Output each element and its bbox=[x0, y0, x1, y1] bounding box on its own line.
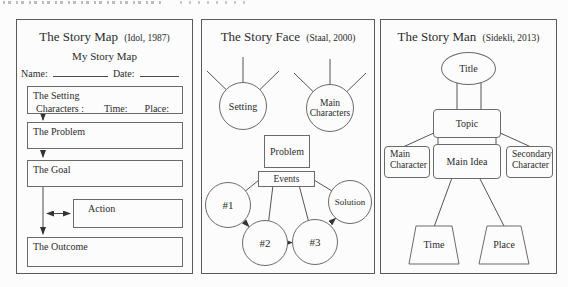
story-man-title-text: The Story Man bbox=[398, 29, 477, 44]
panel-story-man: The Story Man (Sidekli, 2013) Title Topi… bbox=[380, 19, 557, 274]
date-label: Date: bbox=[113, 68, 135, 79]
main-idea-box: Main Idea bbox=[433, 144, 501, 179]
main-character-box: Main Character bbox=[384, 146, 430, 178]
name-blank-line bbox=[53, 75, 108, 77]
setting-box-title: The Setting bbox=[33, 89, 177, 102]
name-label: Name: bbox=[21, 68, 48, 79]
events-node: Events bbox=[258, 171, 315, 187]
topic-box: Topic bbox=[433, 109, 501, 138]
time-label: Time bbox=[409, 239, 459, 250]
outcome-box: The Outcome bbox=[27, 237, 183, 267]
event-3-circle: #3 bbox=[292, 219, 338, 265]
name-date-row: Name: Date: bbox=[21, 68, 184, 79]
figure-three-story-diagrams: The Story Map (Idol, 1987) My Story Map … bbox=[0, 0, 568, 287]
story-map-title: The Story Map (Idol, 1987) bbox=[17, 29, 192, 45]
place-field-label: Place: bbox=[145, 102, 169, 115]
clipped-caption-fragment bbox=[3, 1, 163, 4]
clipped-caption-fragment bbox=[180, 1, 250, 4]
action-box: Action bbox=[73, 199, 183, 228]
panel-story-map: The Story Map (Idol, 1987) My Story Map … bbox=[16, 19, 193, 274]
goal-box: The Goal bbox=[27, 160, 183, 187]
story-man-title: The Story Man (Sidekli, 2013) bbox=[381, 29, 556, 45]
event-1-circle: #1 bbox=[205, 182, 251, 228]
setting-circle: Setting bbox=[219, 82, 267, 130]
problem-node: Problem bbox=[264, 135, 310, 168]
setting-box-fields: Characters : Time: Place: bbox=[33, 102, 177, 115]
place-label: Place bbox=[479, 239, 529, 250]
story-face-citation: (Staal, 2000) bbox=[306, 33, 355, 43]
story-map-subtitle: My Story Map bbox=[17, 50, 192, 62]
story-map-citation: (Idol, 1987) bbox=[124, 33, 169, 43]
solution-circle: Solution bbox=[328, 180, 372, 224]
story-map-title-text: The Story Map bbox=[39, 29, 118, 44]
panel-story-face: The Story Face (Staal, 2000) Setting Mai… bbox=[201, 19, 375, 274]
event-2-circle: #2 bbox=[242, 220, 288, 266]
problem-box: The Problem bbox=[27, 122, 183, 149]
secondary-character-box: Secondary Character bbox=[506, 146, 553, 178]
characters-field-label: Characters : bbox=[36, 102, 84, 115]
main-characters-circle: Main Characters bbox=[306, 84, 354, 132]
time-field-label: Time: bbox=[104, 102, 128, 115]
setting-box: The Setting Characters : Time: Place: bbox=[27, 86, 183, 114]
story-man-citation: (Sidekli, 2013) bbox=[482, 33, 539, 43]
story-face-title-text: The Story Face bbox=[221, 29, 300, 44]
date-blank-line bbox=[140, 75, 179, 77]
title-ellipse: Title bbox=[441, 52, 496, 85]
story-face-title: The Story Face (Staal, 2000) bbox=[202, 29, 374, 45]
